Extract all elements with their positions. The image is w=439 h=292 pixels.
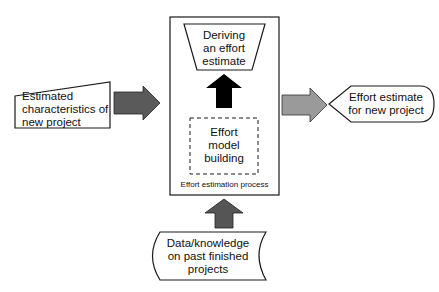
data-arrow-icon bbox=[205, 199, 243, 228]
data-label: Data/knowledge on past finished projects bbox=[158, 237, 258, 276]
process-caption: Effort estimation process bbox=[170, 180, 279, 190]
input-arrow-icon bbox=[114, 86, 160, 120]
output-arrow-icon bbox=[282, 88, 327, 122]
deriving-label: Deriving an effort estimate bbox=[192, 29, 256, 68]
output-label: Effort estimate for new project bbox=[340, 91, 432, 117]
input-label: Estimated characteristics of new project bbox=[22, 90, 114, 129]
model-building-label: Effort model building bbox=[190, 126, 258, 165]
